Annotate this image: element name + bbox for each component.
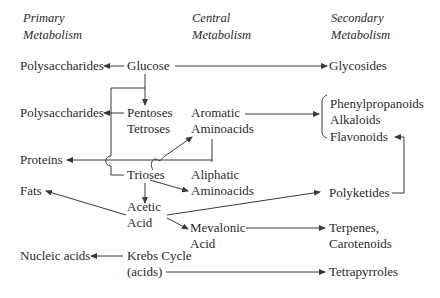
header-secondary-line1: Secondary xyxy=(331,10,390,27)
node-pentoses: Pentoses xyxy=(127,105,173,121)
node-polyketides: Polyketides xyxy=(329,185,390,201)
arrow-trioses-aromatic xyxy=(151,137,192,170)
header-central-line1: Central xyxy=(192,10,251,27)
arrow-acetic-mevalonic xyxy=(167,218,188,229)
header-central-line2: Metabolism xyxy=(192,27,251,44)
node-aromatic-aminoacids: Aminoacids xyxy=(191,121,254,137)
node-tetrapyrroles: Tetrapyrroles xyxy=(329,264,398,280)
node-nucleic-acids: Nucleic acids xyxy=(20,248,90,264)
arrow-polyketides-flavonoids xyxy=(392,137,404,193)
node-terpenes: Terpenes, xyxy=(329,220,379,236)
header-primary: Primary Metabolism xyxy=(23,10,82,44)
node-proteins: Proteins xyxy=(20,152,63,168)
node-acetic: Acetic xyxy=(127,199,161,215)
node-aliphatic-aminoacids: Aminoacids xyxy=(191,183,254,199)
node-polysaccharides-1: Polysaccharides xyxy=(20,58,104,74)
header-primary-line2: Metabolism xyxy=(23,27,82,44)
node-trioses: Trioses xyxy=(127,167,165,183)
node-krebs-cycle: Krebs Cycle xyxy=(127,248,192,264)
header-primary-line1: Primary xyxy=(23,10,82,27)
node-carotenoids: Carotenoids xyxy=(329,236,392,252)
metabolism-diagram: Primary Metabolism Central Metabolism Se… xyxy=(0,0,440,298)
node-flavonoids: Flavonoids xyxy=(330,129,388,145)
brace-secondary-group xyxy=(322,95,327,138)
bracket-bottom-trioses xyxy=(111,166,124,175)
node-tetroses: Tetroses xyxy=(127,121,170,137)
node-aliphatic: Aliphatic xyxy=(191,167,239,183)
node-polysaccharides-2: Polysaccharides xyxy=(20,105,104,121)
arrow-acetic-fats xyxy=(46,191,126,215)
header-central: Central Metabolism xyxy=(192,10,251,44)
node-fats: Fats xyxy=(20,183,42,199)
node-glucose: Glucose xyxy=(127,58,170,74)
node-mevalonic-acid: Acid xyxy=(190,236,215,252)
node-phenylpropanoids: Phenylpropanoids xyxy=(330,96,424,112)
node-alkaloids: Alkaloids xyxy=(330,112,381,128)
node-mevalonic: Mevalonic xyxy=(190,220,246,236)
node-aromatic: Aromatic xyxy=(191,105,240,121)
header-secondary-line2: Metabolism xyxy=(331,27,390,44)
node-glycosides: Glycosides xyxy=(329,58,387,74)
node-acetic-acid: Acid xyxy=(127,215,152,231)
header-secondary: Secondary Metabolism xyxy=(331,10,390,44)
node-krebs-acids: (acids) xyxy=(127,264,162,280)
hop-proteins-left xyxy=(106,156,111,166)
